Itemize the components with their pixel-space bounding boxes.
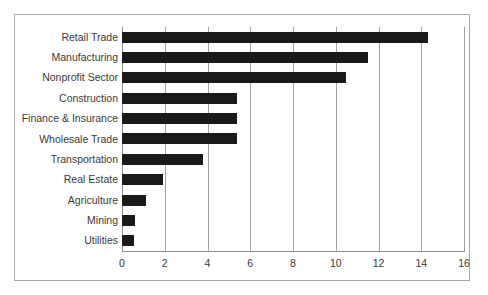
bar: [122, 113, 237, 124]
bar: [122, 72, 346, 83]
category-label: Nonprofit Sector: [15, 72, 118, 83]
bar: [122, 195, 146, 206]
bar: [122, 32, 428, 43]
x-tick-label: 2: [162, 256, 168, 270]
plot-area: [122, 27, 464, 251]
plot-wrapper: Retail TradeManufacturingNonprofit Secto…: [15, 15, 469, 280]
bar: [122, 235, 134, 246]
bar: [122, 52, 368, 63]
x-tick-label: 16: [458, 256, 470, 270]
bar-row: [122, 88, 464, 108]
category-label: Transportation: [15, 154, 118, 165]
category-label: Real Estate: [15, 174, 118, 185]
category-label: Finance & Insurance: [15, 113, 118, 124]
category-axis-labels: Retail TradeManufacturingNonprofit Secto…: [15, 27, 118, 251]
bar-row: [122, 108, 464, 128]
chart-frame: Retail TradeManufacturingNonprofit Secto…: [14, 14, 470, 281]
x-tick-label: 14: [415, 256, 427, 270]
bar-row: [122, 27, 464, 47]
bar-series: [122, 27, 464, 251]
bar: [122, 93, 237, 104]
category-label: Wholesale Trade: [15, 134, 118, 145]
bar-row: [122, 231, 464, 251]
category-label: Agriculture: [15, 195, 118, 206]
category-label: Manufacturing: [15, 52, 118, 63]
x-tick-label: 10: [330, 256, 342, 270]
x-axis-tick-labels: 0246810121416: [122, 256, 464, 272]
x-tick-label: 12: [373, 256, 385, 270]
category-label: Utilities: [15, 235, 118, 246]
gridline-16: [464, 27, 465, 251]
bar: [122, 215, 135, 226]
category-label: Mining: [15, 215, 118, 226]
category-label: Retail Trade: [15, 32, 118, 43]
bar: [122, 154, 203, 165]
bar-row: [122, 47, 464, 67]
bar-row: [122, 210, 464, 230]
x-tick-label: 4: [205, 256, 211, 270]
category-label: Construction: [15, 93, 118, 104]
bar-row: [122, 149, 464, 169]
bar: [122, 174, 163, 185]
bar-row: [122, 170, 464, 190]
bar-row: [122, 68, 464, 88]
bar-row: [122, 129, 464, 149]
x-tick-label: 8: [290, 256, 296, 270]
bar: [122, 133, 237, 144]
x-tick-label: 6: [247, 256, 253, 270]
x-axis-line: [122, 251, 465, 252]
x-tick-label: 0: [119, 256, 125, 270]
bar-row: [122, 190, 464, 210]
